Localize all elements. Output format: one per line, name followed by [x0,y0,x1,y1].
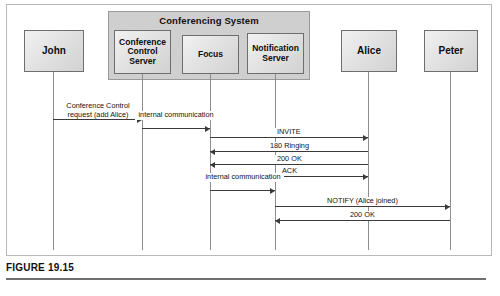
actor-box-focus: Focus [182,35,239,74]
message-line-m4 [210,151,368,152]
lifeline-ccs [142,74,143,250]
figure-caption-rule [6,278,486,280]
message-label-m2: internal communication [135,111,217,120]
message-line-m8 [275,206,450,207]
arrow-head-m8 [445,204,450,210]
message-line-m3 [210,137,368,138]
arrow-head-m6 [363,174,368,180]
message-label-m5: 200 OK [275,155,304,164]
conferencing-system-title: Conferencing System [109,15,309,26]
arrow-head-m4 [210,149,215,155]
sequence-diagram-figure: Conferencing System John Conference Cont… [0,0,500,296]
message-line-m2 [142,128,210,129]
message-label-m4: 180 Ringing [268,142,311,151]
message-label-m8: NOTIFY (Alice joined) [325,197,400,206]
message-line-m5 [210,164,368,165]
arrow-head-m5 [210,162,215,168]
actor-box-john: John [24,30,84,72]
message-label-m9: 200 OK [348,211,377,220]
actor-box-conference-control-server: Conference Control Server [114,30,171,74]
message-label-m7: internal communication [202,173,284,182]
lifeline-john [53,72,54,250]
actor-box-notification-server: Notification Server [247,33,304,74]
message-label-m1: Conference Control request (add Alice) [57,102,139,119]
message-line-m9 [275,220,450,221]
figure-caption: FIGURE 19.15 [6,262,74,273]
actor-box-alice: Alice [341,30,397,72]
actor-box-peter: Peter [424,30,478,72]
lifeline-peter [450,72,451,250]
arrow-head-m9 [275,218,280,224]
message-label-m3: INVITE [275,128,303,137]
arrow-head-m3 [363,135,368,141]
arrow-head-m2 [205,126,210,132]
lifeline-alice [368,72,369,250]
message-line-m7 [210,190,275,191]
arrow-head-m7 [270,188,275,194]
